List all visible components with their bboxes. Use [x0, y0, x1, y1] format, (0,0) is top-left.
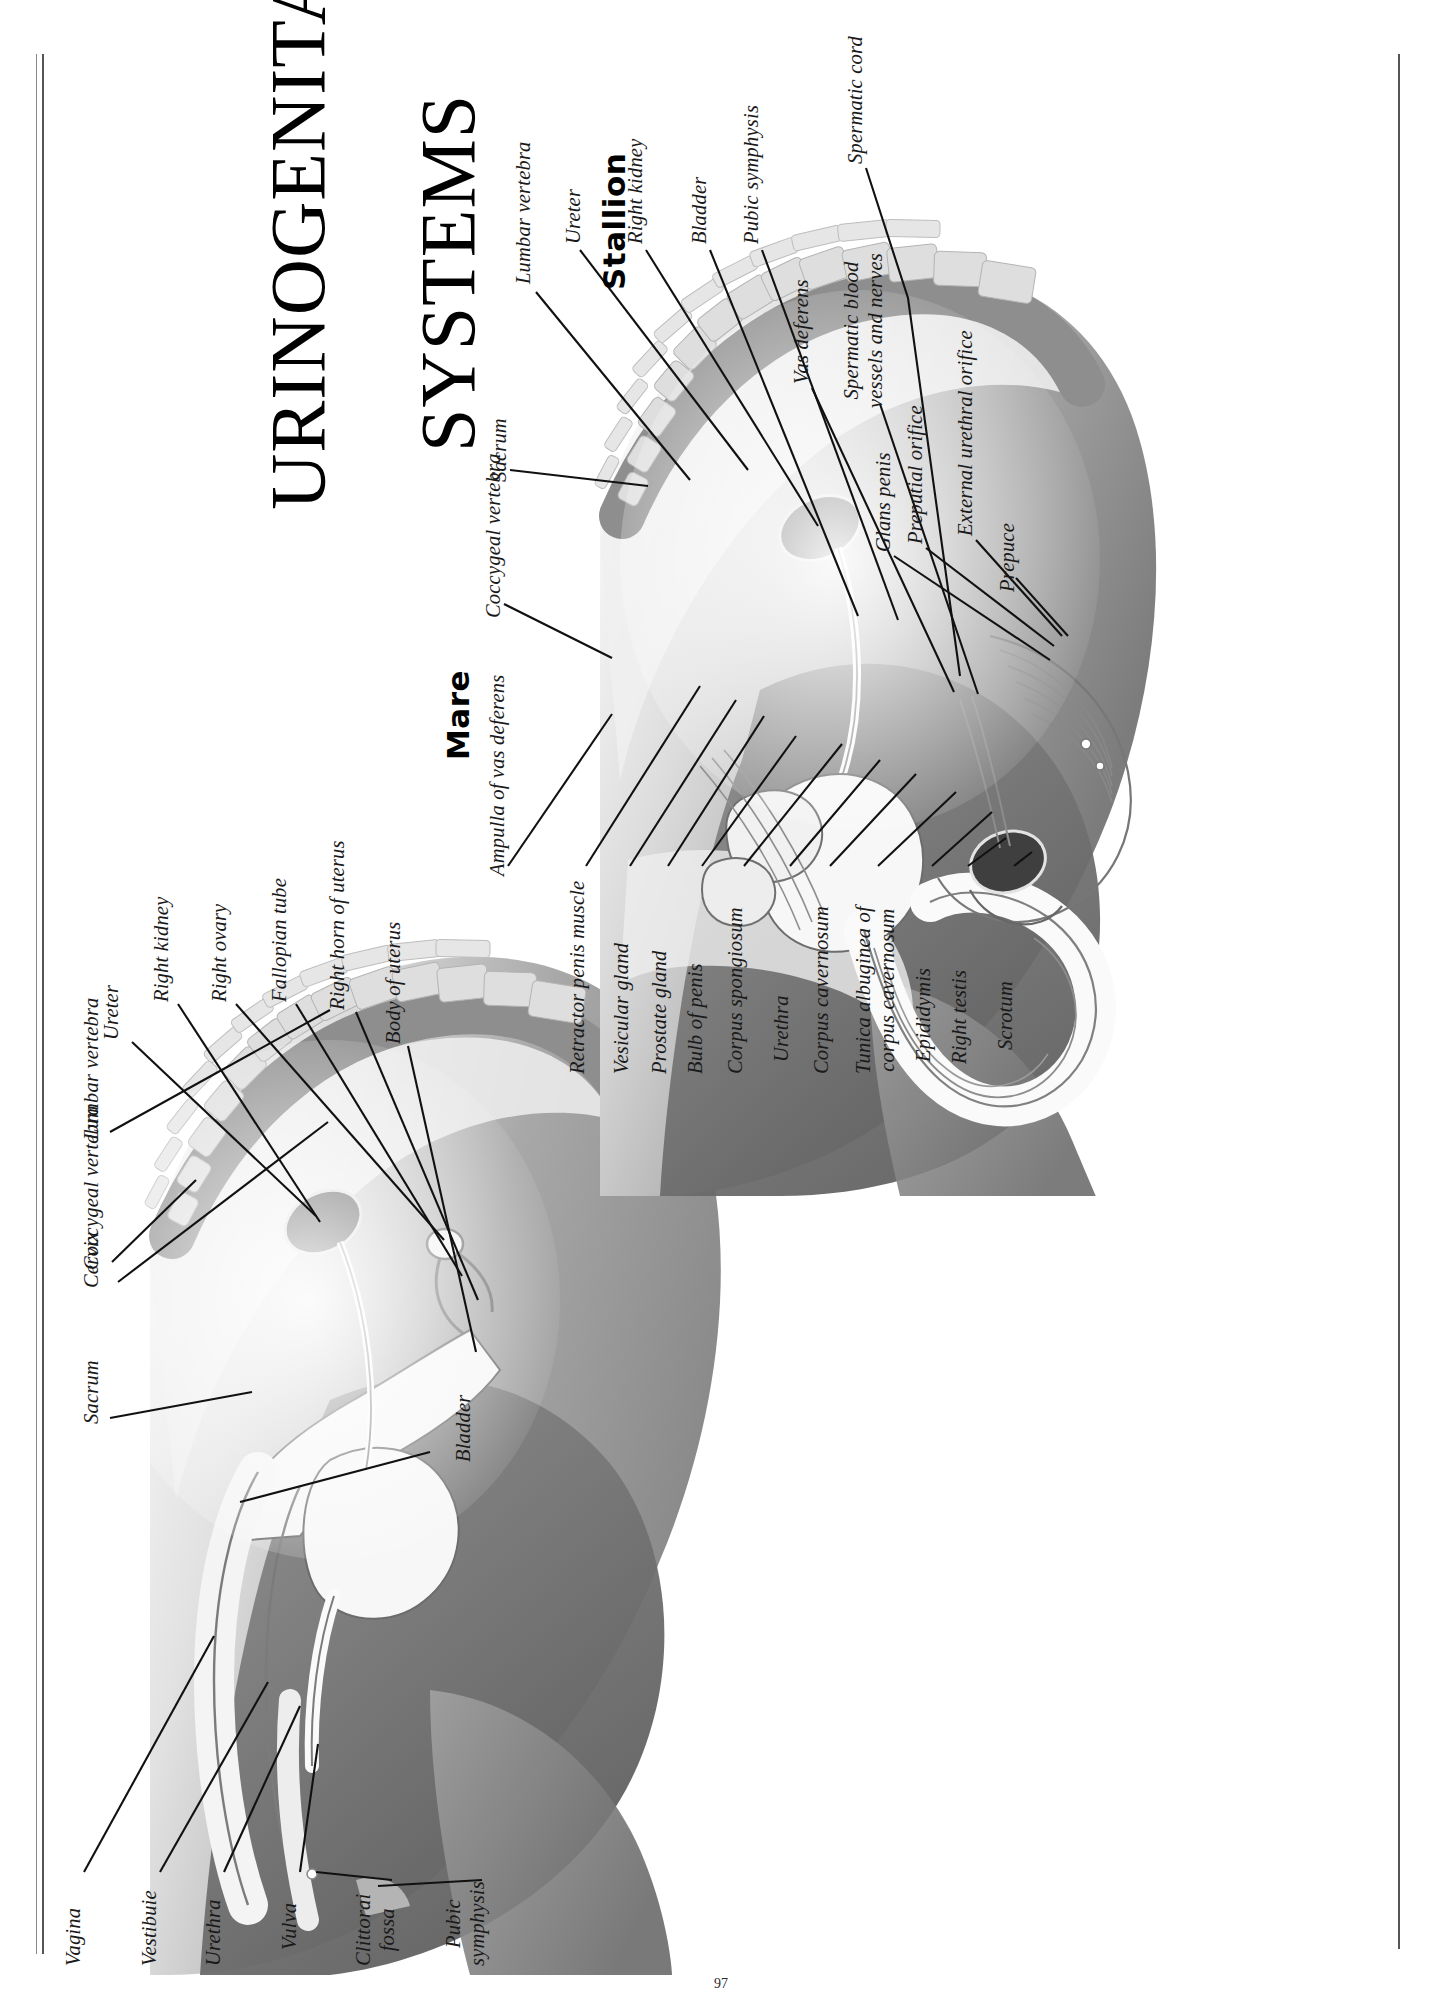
stallion-label-tunica-albuginea: Tunica albuginea of corpus cavernosum — [852, 906, 899, 1074]
stallion-label-corpus-spongiosum: Corpus spongiosum — [724, 907, 747, 1074]
mare-label-right-ovary: Right ovary — [208, 904, 231, 1002]
stallion-label-spermatic-blood-vessels: Spermatic blood vessels and nerves — [840, 253, 887, 408]
page-canvas: URINOGENITAL SYSTEMS Mare Stallion Coccy… — [0, 0, 1445, 2006]
page-title-line1: URINOGENITAL — [254, 0, 341, 510]
mare-label-vulva: Vulva — [278, 1903, 301, 1950]
page-title-line2: SYSTEMS — [411, 94, 486, 452]
mare-label-pubic-symphysis: Pubic symphysis — [442, 1881, 489, 1966]
mare-label-cervix: Cervix — [80, 1232, 103, 1288]
stallion-label-bulb-of-penis: Bulb of penis — [684, 963, 707, 1074]
stallion-label-scrotum: Scrotum — [994, 981, 1017, 1050]
mare-label-clitoral-fossa: Clittorai fossa — [352, 1894, 399, 1966]
mare-label-bladder: Bladder — [452, 1395, 475, 1462]
mare-label-sacrum: Sacrum — [80, 1360, 103, 1424]
section-heading-mare: Mare — [440, 670, 476, 760]
stallion-label-lumbar-vertebra: Lumbar vertebra — [512, 141, 535, 284]
stallion-label-urethra: Urethra — [770, 995, 793, 1062]
stallion-label-external-urethral-orifice: External urethral orifice — [954, 330, 977, 536]
stallion-label-ureter: Ureter — [562, 189, 585, 244]
stallion-label-pubic-symphysis: Pubic symphysis — [740, 105, 763, 244]
stallion-label-vesicular-gland: Vesicular gland — [610, 943, 633, 1074]
mare-label-body-of-uterus: Body of uterus — [382, 922, 405, 1044]
stallion-label-retractor-penis-muscle: Retractor penis muscle — [566, 881, 589, 1074]
stallion-label-right-testis: Right testis — [948, 970, 971, 1064]
stallion-label-vas-deferens: Vas deferens — [790, 279, 813, 384]
stallion-label-corpus-cavernosum: Corpus cavernosum — [810, 906, 833, 1074]
stallion-label-bladder: Bladder — [688, 177, 711, 244]
stallion-label-right-kidney: Right kidney — [624, 139, 647, 244]
page-number: 97 — [714, 1976, 728, 1992]
stallion-label-ampulla-of-vas-deferens: Ampulla of vas deferens — [486, 675, 509, 876]
stallion-label-sacrum: Sacrum — [488, 418, 511, 482]
stallion-label-spermatic-cord: Spermatic cord — [844, 36, 867, 164]
mare-label-urethra: Urethra — [202, 1899, 225, 1966]
stallion-label-prepuce: Prepuce — [996, 523, 1019, 592]
stallion-label-epididymis: Epididymis — [912, 968, 935, 1062]
stallion-label-glans-penis: Glans penis — [872, 452, 895, 552]
stallion-label-prostate-gland: Prostate gland — [648, 951, 671, 1074]
stallion-label-preputial-orifice: Preputial orifice — [904, 405, 927, 544]
mare-label-right-kidney: Right kidney — [150, 897, 173, 1002]
mare-label-vestibule: Vestibuie — [138, 1890, 161, 1966]
mare-label-right-horn-of-uterus: Right horn of uterus — [326, 840, 349, 1010]
mare-label-vagina: Vagina — [62, 1908, 85, 1966]
mare-label-ureter: Ureter — [100, 985, 123, 1040]
mare-label-fallopian-tube: Fallopian tube — [268, 878, 291, 1002]
